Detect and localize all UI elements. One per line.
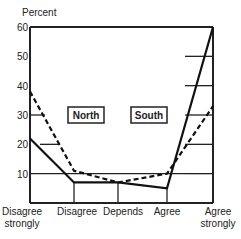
x-tick-label: Depends	[103, 206, 143, 217]
y-tick-label: 20	[17, 139, 29, 150]
legend: NorthSouth	[68, 107, 167, 123]
legend-label: South	[135, 110, 163, 121]
y-tick-label: 50	[17, 51, 29, 62]
y-tick-label: 10	[17, 169, 29, 180]
y-tick-label: 40	[17, 81, 29, 92]
x-tick-labels: DisagreestronglyDisagreeDependsAgreeAgre…	[2, 206, 236, 229]
x-tick-label: strongly	[4, 218, 39, 229]
series-lines	[30, 27, 213, 188]
y-axis-label: Percent	[22, 7, 57, 18]
series-line-north	[30, 92, 213, 183]
y-tick-labels: 102030405060	[17, 22, 29, 180]
y-tick-label: 60	[17, 22, 29, 33]
y-tick-label: 30	[17, 110, 29, 121]
x-tick-label: Agree	[205, 206, 232, 217]
x-tick-label: Disagree	[2, 206, 42, 217]
chart: Percent 102030405060 NorthSouth Disagree…	[0, 0, 241, 239]
x-tick-label: Agree	[154, 206, 181, 217]
legend-label: North	[73, 110, 100, 121]
x-tick-label: Disagree	[57, 206, 97, 217]
series-line-south	[30, 27, 213, 188]
x-tick-label: strongly	[200, 218, 235, 229]
